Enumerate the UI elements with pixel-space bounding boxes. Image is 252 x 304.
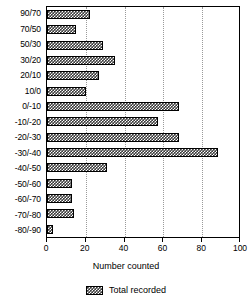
- x-axis-tick-label: 40: [119, 244, 128, 253]
- bar-row: [47, 222, 239, 237]
- x-axis-tick: [162, 238, 163, 242]
- y-axis-tick-label: -10/-20: [0, 114, 44, 129]
- legend-label-total-recorded: Total recorded: [109, 286, 166, 295]
- x-axis-tick: [201, 238, 202, 242]
- bar-row: [47, 99, 239, 114]
- bar-row: [47, 130, 239, 145]
- bar-row: [47, 145, 239, 160]
- bar: [47, 209, 74, 218]
- x-axis-tick: [239, 238, 240, 242]
- bar: [47, 225, 53, 234]
- y-axis-tick-label: 50/30: [0, 37, 44, 52]
- y-axis-tick-label: 20/10: [0, 68, 44, 83]
- bar-row: [47, 191, 239, 206]
- legend-swatch-total-recorded: [86, 286, 103, 295]
- bar: [47, 102, 179, 111]
- y-axis-tick-label: 0/-10: [0, 99, 44, 114]
- bar: [47, 87, 86, 96]
- bar: [47, 56, 115, 65]
- x-axis-tick: [85, 238, 86, 242]
- bar: [47, 179, 72, 188]
- y-axis-tick-label: -20/-30: [0, 130, 44, 145]
- bar-row: [47, 53, 239, 68]
- bar: [47, 194, 72, 203]
- x-axis: 020406080100: [46, 238, 240, 260]
- bar-row: [47, 114, 239, 129]
- bar-row: [47, 176, 239, 191]
- y-axis-tick-label: -30/-40: [0, 145, 44, 160]
- x-axis-tick-label: 0: [44, 244, 49, 253]
- bar: [47, 117, 158, 126]
- bar-row: [47, 7, 239, 22]
- x-axis-title: Number counted: [0, 262, 252, 271]
- bar: [47, 133, 179, 142]
- bar-row: [47, 84, 239, 99]
- bar-row: [47, 38, 239, 53]
- y-axis-tick-label: 90/70: [0, 6, 44, 21]
- bar-row: [47, 22, 239, 37]
- bar-chart: 90/7070/5050/3030/2020/1010/00/-10-10/-2…: [0, 0, 252, 304]
- x-axis-tick-label: 80: [196, 244, 205, 253]
- y-axis-tick-label: 10/0: [0, 83, 44, 98]
- y-axis-tick-label: -40/-50: [0, 161, 44, 176]
- y-axis-tick-label: -50/-60: [0, 176, 44, 191]
- bar-row: [47, 206, 239, 221]
- bar: [47, 163, 107, 172]
- x-axis-tick: [46, 238, 47, 242]
- bar: [47, 25, 76, 34]
- bar-row: [47, 160, 239, 175]
- bar-series-total-recorded: [47, 7, 239, 237]
- y-axis-tick-label: -60/-70: [0, 192, 44, 207]
- y-axis-tick-label: -70/-80: [0, 207, 44, 222]
- bar: [47, 41, 103, 50]
- bar: [47, 10, 90, 19]
- x-axis-tick-label: 20: [80, 244, 89, 253]
- y-axis-tick-label: 30/20: [0, 52, 44, 67]
- bar-row: [47, 68, 239, 83]
- y-axis-category-labels: 90/7070/5050/3030/2020/1010/00/-10-10/-2…: [0, 6, 44, 238]
- bar: [47, 148, 218, 157]
- y-axis-tick-label: -80/-90: [0, 223, 44, 238]
- plot-frame: [46, 6, 240, 238]
- plot-area: 90/7070/5050/3030/2020/1010/00/-10-10/-2…: [0, 0, 252, 250]
- x-axis-tick: [124, 238, 125, 242]
- legend: Total recorded: [0, 286, 252, 295]
- x-axis-tick-label: 60: [158, 244, 167, 253]
- bar: [47, 71, 99, 80]
- x-axis-tick-label: 100: [233, 244, 247, 253]
- y-axis-tick-label: 70/50: [0, 21, 44, 36]
